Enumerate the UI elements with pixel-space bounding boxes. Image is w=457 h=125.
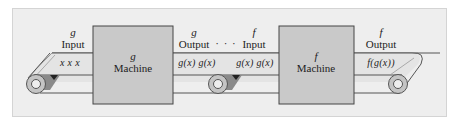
- f-machine-label: f Machine: [297, 50, 335, 74]
- f-output-text: Output: [366, 38, 397, 50]
- g-input-text: Input: [61, 38, 84, 50]
- middle-roller-icon: [209, 75, 243, 94]
- f-machine-fn: f: [297, 50, 335, 62]
- g-machine-fn: g: [114, 50, 152, 62]
- f-input-text: Input: [242, 38, 265, 50]
- g-output-text: Output: [179, 38, 210, 50]
- g-machine-label: g Machine: [114, 50, 152, 74]
- left-roller-icon: [27, 75, 61, 94]
- right-roller-icon: [389, 75, 408, 94]
- g-input-fn: g: [61, 26, 84, 38]
- g-input-belt-values: x x x: [60, 57, 80, 68]
- f-output-fn: f: [366, 26, 397, 38]
- g-output-fn: g: [179, 26, 210, 38]
- f-machine-text: Machine: [297, 62, 335, 74]
- g-output-belt-values: g(x) g(x): [178, 57, 215, 68]
- f-input-belt-values: g(x) g(x): [236, 57, 273, 68]
- g-machine-text: Machine: [114, 62, 152, 74]
- f-input-label: f Input: [242, 26, 265, 50]
- ellipsis: · · ·: [215, 37, 237, 49]
- f-output-belt-values: f(g(x)): [367, 57, 395, 68]
- g-input-label: g Input: [61, 26, 84, 50]
- g-output-label: g Output: [179, 26, 210, 50]
- f-output-label: f Output: [366, 26, 397, 50]
- f-input-fn: f: [242, 26, 265, 38]
